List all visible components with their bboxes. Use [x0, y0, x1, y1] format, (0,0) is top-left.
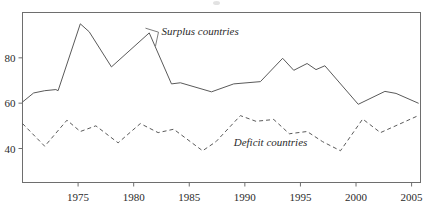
x-tick-label-1990: 1990: [234, 191, 257, 203]
y-tick-label-80: 80: [5, 52, 17, 64]
y-axis-ticks: [19, 58, 23, 149]
x-tick-label-2005: 2005: [401, 191, 424, 203]
x-tick-label-1995: 1995: [289, 191, 312, 203]
line-chart: 406080 1975198019851990199520002005 Surp…: [0, 0, 433, 211]
x-tick-label-1985: 1985: [178, 191, 201, 203]
series-line-deficit-countries: [23, 116, 419, 151]
plot-frame: [23, 13, 421, 183]
surplus-label-leader-line: [145, 28, 158, 46]
x-tick-label-2000: 2000: [345, 191, 368, 203]
y-tick-label-60: 60: [5, 97, 17, 109]
series-label-surplus-countries: Surplus countries: [161, 25, 238, 37]
y-tick-label-40: 40: [5, 143, 17, 155]
x-axis-tick-labels: 1975198019851990199520002005: [67, 191, 423, 203]
x-axis-ticks: [78, 183, 412, 187]
x-tick-label-1980: 1980: [123, 191, 146, 203]
x-tick-label-1975: 1975: [67, 191, 90, 203]
series-label-deficit-countries: Deficit countries: [233, 136, 308, 148]
chart-figure: 406080 1975198019851990199520002005 Surp…: [0, 0, 433, 211]
y-axis-tick-labels: 406080: [5, 52, 17, 155]
